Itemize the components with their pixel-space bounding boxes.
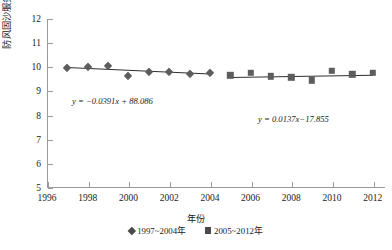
legend-item-series2: 2005~2012年 (205, 224, 263, 237)
trend-equation-series2: y = 0.0137x−17.855 (258, 114, 329, 124)
x-axis-tick-label: 2008 (271, 193, 311, 204)
square-marker-icon (205, 227, 211, 233)
x-axis-title: 年份 (0, 211, 392, 225)
y-axis-tick-label: 7 (15, 135, 41, 145)
y-axis-tick (48, 91, 53, 92)
x-axis-tick-label: 1996 (27, 193, 67, 204)
legend-label-series2: 2005~2012年 (214, 224, 263, 237)
y-axis-tick (48, 116, 53, 117)
square-marker-icon (268, 73, 274, 79)
trend-equation-series1: y = −0.0391x + 88.086 (72, 96, 153, 106)
x-axis-tick (211, 182, 212, 187)
y-axis-tick-label: 5 (15, 183, 41, 193)
x-axis-tick (292, 182, 293, 187)
square-marker-icon (227, 72, 233, 78)
y-axis-title: 防风固沙服务量/亿t (0, 0, 13, 62)
x-axis-tick (89, 182, 90, 187)
y-axis-tick (48, 164, 53, 165)
square-marker-icon (308, 77, 314, 83)
x-axis-tick (170, 182, 171, 187)
y-axis-tick (48, 67, 53, 68)
y-axis-tick (48, 140, 53, 141)
y-axis-tick-label: 8 (15, 111, 41, 121)
figure-caption-strip (0, 246, 392, 250)
x-axis-tick-label: 2010 (312, 193, 352, 204)
x-axis-tick (129, 182, 130, 187)
y-axis-tick-label: 9 (15, 86, 41, 96)
x-axis-tick-label: 1998 (68, 193, 108, 204)
x-axis-tick-label: 2000 (108, 193, 148, 204)
x-axis-tick (333, 182, 334, 187)
x-axis-tick-label: 2006 (231, 193, 271, 204)
x-axis-tick (48, 182, 49, 187)
y-axis-tick-label: 6 (15, 159, 41, 169)
y-axis-tick (48, 43, 53, 44)
x-axis-tick-label: 2002 (149, 193, 189, 204)
square-marker-icon (370, 70, 376, 76)
chart-legend: 1997~2004年 2005~2012年 (0, 224, 392, 237)
x-axis-tick-label: 2012 (353, 193, 392, 204)
y-axis-tick-label: 11 (15, 38, 41, 48)
legend-label-series1: 1997~2004年 (137, 224, 186, 237)
square-marker-icon (329, 68, 335, 74)
x-axis-tick (374, 182, 375, 187)
square-marker-icon (247, 69, 253, 75)
x-axis-tick-label: 2004 (190, 193, 230, 204)
x-axis-tick (252, 182, 253, 187)
legend-item-series1: 1997~2004年 (129, 224, 186, 237)
y-axis-tick-label: 12 (15, 14, 41, 24)
square-marker-icon (349, 71, 355, 77)
y-axis-tick (48, 188, 53, 189)
chart-figure: 防风固沙服务量/亿t 56789101112 19961998200020022… (0, 0, 392, 250)
y-axis-tick-label: 10 (15, 62, 41, 72)
y-axis-tick (48, 19, 53, 20)
diamond-marker-icon (128, 227, 136, 235)
square-marker-icon (288, 74, 294, 80)
